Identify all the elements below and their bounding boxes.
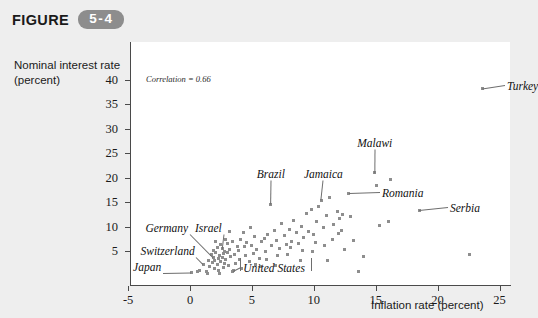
y-axis-tick [125, 129, 130, 130]
scatter-point [301, 249, 304, 252]
scatter-point [258, 257, 261, 260]
scatter-point [326, 259, 329, 262]
scatter-point [300, 225, 303, 228]
scatter-point [266, 233, 269, 236]
x-axis-tick-label: 20 [418, 293, 458, 308]
scatter-point [228, 230, 231, 233]
scatter-point [207, 259, 210, 262]
scatter-point [290, 240, 293, 243]
scatter-point [468, 253, 471, 256]
scatter-point [242, 231, 245, 234]
scatter-point [260, 240, 263, 243]
y-axis-tick-label: 35 [88, 97, 118, 112]
scatter-point [332, 223, 335, 226]
scatter-point [208, 265, 211, 268]
y-axis-tick [125, 104, 130, 105]
scatter-point [280, 222, 283, 225]
scatter-point [387, 220, 390, 223]
y-axis-tick [125, 227, 130, 228]
scatter-point [362, 255, 365, 258]
scatter-point [244, 254, 247, 257]
scatter-point [286, 253, 289, 256]
point-label-serbia: Serbia [450, 202, 480, 214]
scatter-point [292, 219, 295, 222]
figure-header: FIGURE 5-4 [12, 10, 124, 29]
scatter-point [275, 239, 278, 242]
x-axis-tick-label: 5 [232, 293, 272, 308]
y-axis-tick [125, 202, 130, 203]
scatter-point [224, 258, 227, 261]
x-axis-tick [252, 286, 253, 291]
point-label-malawi: Malawi [357, 137, 392, 149]
x-axis-line [130, 285, 511, 286]
point-label-japan: Japan [133, 261, 161, 273]
point-label-brazil: Brazil [257, 168, 285, 180]
united-states-bracket-right [311, 258, 312, 271]
y-axis-tick-label: 25 [88, 146, 118, 161]
scatter-point [236, 245, 239, 248]
scatter-point [283, 234, 286, 237]
scatter-point [337, 232, 340, 235]
x-axis-tick-label: 0 [170, 293, 210, 308]
scatter-point [278, 247, 281, 250]
scatter-point [276, 254, 279, 257]
scatter-point [325, 214, 328, 217]
scatter-point [352, 239, 355, 242]
scatter-point [249, 226, 252, 229]
scatter-point [231, 240, 234, 243]
scatter-point [289, 246, 292, 249]
x-axis-tick [190, 286, 191, 291]
y-axis-tick-label: 15 [88, 195, 118, 210]
y-axis-line [130, 42, 131, 286]
scatter-point [216, 246, 219, 249]
scatter-point [226, 242, 229, 245]
x-axis-tick-label: 25 [480, 293, 520, 308]
scatter-point [297, 242, 300, 245]
scatter-point [226, 251, 229, 254]
scatter-point [357, 270, 360, 273]
point-label-united-states: United States [243, 262, 305, 274]
scatter-point [233, 253, 236, 256]
y-axis-tick-label: 40 [88, 73, 118, 88]
scatter-point [237, 249, 240, 252]
scatter-point [213, 259, 216, 262]
scatter-point [214, 251, 217, 254]
y-axis-tick [125, 80, 130, 81]
annotation-leader-line [374, 149, 375, 173]
scatter-point [263, 237, 266, 240]
y-axis-tick [125, 153, 130, 154]
scatter-point [343, 248, 346, 251]
scatter-point [224, 238, 227, 241]
x-axis-tick-label: 15 [356, 293, 396, 308]
scatter-point [252, 252, 255, 255]
y-axis-tick-label: 10 [88, 220, 118, 235]
scatter-point [315, 220, 318, 223]
y-axis-tick [125, 251, 130, 252]
scatter-point [270, 244, 273, 247]
scatter-point [349, 215, 352, 218]
scatter-point [206, 272, 209, 275]
scatter-point [341, 213, 344, 216]
scatter-point [229, 255, 232, 258]
scatter-point [223, 262, 226, 265]
scatter-point [328, 196, 331, 199]
x-axis-tick-label: -5 [108, 293, 148, 308]
x-axis-tick [314, 286, 315, 291]
point-label-germany: Germany [145, 222, 188, 234]
point-label-switzerland: Switzerland [140, 245, 194, 257]
scatter-point [198, 269, 201, 272]
y-axis-tick [125, 178, 130, 179]
scatter-point [273, 229, 276, 232]
annotation-leader-line [270, 180, 271, 204]
scatter-point [331, 238, 334, 241]
scatter-point [264, 250, 267, 253]
scatter-point [222, 266, 225, 269]
point-label-romania: Romania [382, 187, 424, 199]
scatter-point [312, 233, 315, 236]
scatter-point [317, 205, 320, 208]
y-axis-tick-label: 5 [88, 244, 118, 259]
scatter-point [314, 241, 317, 244]
scatter-point [305, 212, 308, 215]
scatter-point [310, 208, 313, 211]
